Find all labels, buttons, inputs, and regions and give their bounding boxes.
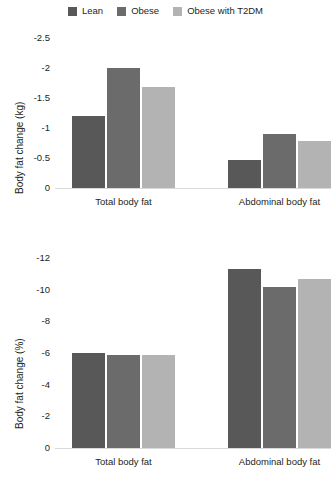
y-axis-tick-label: -0.5	[34, 153, 50, 163]
bar	[298, 141, 331, 188]
y-axis-title-pct: Body fat change (%)	[14, 259, 25, 429]
y-axis-tick-label: -1	[42, 123, 50, 133]
chart-body-fat-change-pct: Body fat change (%) 0-2-4-6-8-10-12Total…	[0, 244, 331, 487]
legend-label-obese-t2dm: Obese with T2DM	[187, 6, 263, 16]
bar	[72, 116, 105, 188]
bar	[263, 287, 296, 448]
legend-label-lean: Lean	[82, 6, 103, 16]
legend-item-lean: Lean	[68, 6, 103, 16]
chart-body-fat-change-kg: Body fat change (kg) 0-0.5-1-1.5-2-2.5To…	[0, 22, 331, 234]
bar	[263, 134, 296, 188]
legend-item-obese-t2dm: Obese with T2DM	[173, 6, 263, 16]
y-axis-title-kg: Body fat change (kg)	[14, 44, 25, 194]
bar	[107, 68, 140, 188]
legend-label-obese: Obese	[131, 6, 159, 16]
y-axis-tick-label: -2.5	[34, 33, 50, 43]
x-axis-group-label: Total body fat	[95, 457, 152, 467]
zero-baseline	[55, 188, 331, 189]
y-axis-tick-label: -2	[42, 63, 50, 73]
y-axis-tick-label: -6	[42, 348, 50, 358]
x-axis-group-label: Total body fat	[95, 197, 152, 207]
bar	[107, 355, 140, 448]
plot-area-pct: 0-2-4-6-8-10-12Total body fatAbdominal b…	[55, 258, 331, 448]
legend-swatch-obese-t2dm	[173, 7, 182, 16]
bar	[228, 269, 261, 448]
y-axis-tick-label: -1.5	[34, 93, 50, 103]
bar	[228, 160, 261, 188]
legend-swatch-obese	[117, 7, 126, 16]
bar	[72, 353, 105, 448]
bar	[142, 87, 175, 188]
legend-item-obese: Obese	[117, 6, 159, 16]
x-axis-group-label: Abdominal body fat	[239, 197, 320, 207]
legend-swatch-lean	[68, 7, 77, 16]
chart-legend: Lean Obese Obese with T2DM	[0, 0, 331, 22]
bar	[142, 355, 175, 448]
zero-baseline	[55, 448, 331, 449]
y-axis-tick-label: 0	[45, 443, 50, 453]
bar	[298, 279, 331, 448]
y-axis-tick-label: -2	[42, 412, 50, 422]
y-axis-tick-label: -8	[42, 317, 50, 327]
y-axis-tick-label: -4	[42, 380, 50, 390]
x-axis-group-label: Abdominal body fat	[239, 457, 320, 467]
plot-area-kg: 0-0.5-1-1.5-2-2.5Total body fatAbdominal…	[55, 38, 331, 188]
y-axis-tick-label: 0	[45, 183, 50, 193]
y-axis-tick-label: -10	[36, 285, 50, 295]
y-axis-tick-label: -12	[36, 253, 50, 263]
